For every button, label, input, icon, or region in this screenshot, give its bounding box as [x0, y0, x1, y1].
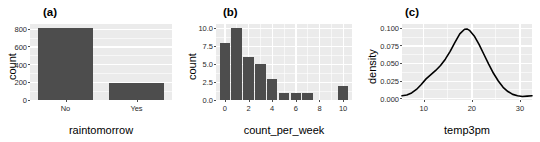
figure-three-panel-plots: (a) count raintomorrow 0200400600800NoYe…	[0, 0, 540, 142]
y-tick-label: 7.5	[180, 42, 213, 51]
bar-5	[279, 93, 289, 100]
y-tick-label: 0.025	[360, 77, 399, 86]
x-tick-mark	[225, 100, 226, 102]
y-tick-label: 800	[0, 25, 27, 34]
gridline-major-v	[295, 24, 296, 100]
panel-b-plot-area	[216, 24, 352, 100]
y-tick-label: 10.0	[180, 24, 213, 33]
bar-3	[255, 64, 265, 100]
bar-0	[220, 43, 230, 100]
gridline-minor-v	[284, 24, 285, 100]
y-tick-label: 400	[0, 60, 27, 69]
x-tick-label: 0	[223, 104, 227, 113]
bar-7	[302, 93, 312, 100]
x-tick-label: Yes	[130, 104, 142, 113]
y-tick-mark	[214, 100, 216, 101]
x-tick-mark	[249, 100, 250, 102]
y-tick-label: 0	[0, 96, 27, 105]
x-tick-mark	[343, 100, 344, 102]
y-tick-mark	[28, 82, 30, 83]
bar-2	[243, 57, 253, 100]
panel-a-tag: (a)	[43, 6, 57, 18]
x-tick-mark	[319, 100, 320, 102]
x-tick-label: 6	[294, 104, 298, 113]
bar-6	[291, 93, 301, 100]
panel-a: (a) count raintomorrow 0200400600800NoYe…	[0, 0, 180, 142]
y-tick-mark	[400, 28, 402, 29]
panel-a-plot-area	[30, 24, 172, 100]
panel-b: (b) count count_per_week 0.02.55.07.510.…	[180, 0, 360, 142]
y-tick-label: 0.000	[360, 94, 399, 103]
y-tick-mark	[214, 46, 216, 47]
panel-a-x-axis-title: raintomorrow	[30, 124, 172, 136]
panel-c-plot-area	[402, 24, 532, 100]
y-tick-label: 600	[0, 42, 27, 51]
bar-4	[267, 79, 277, 101]
y-tick-mark	[214, 82, 216, 83]
y-tick-mark	[214, 64, 216, 65]
panel-c-x-axis-title: temp3pm	[402, 124, 532, 136]
gridline-minor-v	[331, 24, 332, 100]
x-tick-label: No	[61, 104, 71, 113]
y-tick-mark	[28, 100, 30, 101]
y-tick-label: 0.075	[360, 41, 399, 50]
panel-c-tag: (c)	[405, 6, 419, 18]
y-tick-mark	[400, 45, 402, 46]
y-tick-label: 0.0	[180, 96, 213, 105]
x-tick-mark	[296, 100, 297, 102]
y-tick-label: 200	[0, 78, 27, 87]
y-tick-label: 0.050	[360, 59, 399, 68]
y-tick-label: 5.0	[180, 60, 213, 69]
density-curve-svg	[402, 24, 532, 100]
panel-b-tag: (b)	[223, 6, 238, 18]
y-tick-label: 2.5	[180, 78, 213, 87]
x-tick-label: 30	[516, 104, 524, 113]
y-tick-mark	[214, 28, 216, 29]
y-tick-mark	[400, 81, 402, 82]
x-tick-label: 4	[270, 104, 274, 113]
x-tick-mark	[424, 100, 425, 102]
x-tick-mark	[472, 100, 473, 102]
gridline-minor-v	[307, 24, 308, 100]
density-curve-path	[402, 29, 532, 97]
bar-1	[231, 28, 241, 100]
y-tick-mark	[28, 64, 30, 65]
y-tick-mark	[28, 46, 30, 47]
x-tick-label: 2	[246, 104, 250, 113]
x-tick-mark	[137, 100, 138, 102]
x-tick-mark	[272, 100, 273, 102]
y-tick-mark	[400, 63, 402, 64]
panel-b-x-axis-title: count_per_week	[216, 124, 352, 136]
x-tick-label: 8	[317, 104, 321, 113]
y-tick-mark	[400, 98, 402, 99]
x-tick-mark	[66, 100, 67, 102]
x-tick-mark	[520, 100, 521, 102]
bar-10	[338, 86, 348, 100]
y-tick-mark	[28, 29, 30, 30]
bar-Yes	[109, 83, 164, 100]
gridline-major-v	[319, 24, 320, 100]
x-tick-label: 20	[468, 104, 476, 113]
y-tick-label: 0.100	[360, 24, 399, 33]
x-tick-label: 10	[339, 104, 347, 113]
bar-No	[38, 28, 93, 100]
panel-c: (c) density temp3pm 0.0000.0250.0500.075…	[360, 0, 540, 142]
x-tick-label: 10	[419, 104, 427, 113]
